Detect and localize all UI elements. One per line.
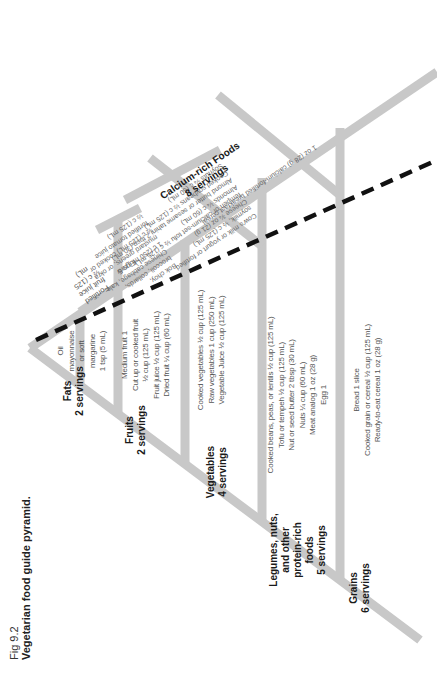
legumes-item: Nut or seed butter 2 tbsp (30 mL) [287, 290, 298, 500]
group-legumes-name: protein-rich [292, 500, 304, 600]
fruits-item: ½ cup (125 mL) [141, 300, 152, 410]
group-legumes-name: Legumes, nuts, [268, 500, 280, 600]
grains-item: Ready-to-eat cereal 1 oz (28 g) [373, 300, 384, 480]
legumes-item: Meat analog 1 oz (28 g) [308, 290, 319, 500]
fruits-item: Cut up or cooked fruit [131, 300, 142, 410]
figure-title: Vegetarian food guide pyramid. [20, 496, 32, 660]
fats-item: margarine [88, 316, 99, 386]
group-grains-servings: 6 servings [360, 548, 372, 628]
vegetables-item: Vegetable Juice ½ cup (125 mL) [217, 260, 228, 440]
legumes-item: Nuts ¼ cup (60 mL) [298, 290, 309, 500]
figure-caption: Fig 9.2 Vegetarian food guide pyramid. [8, 496, 32, 660]
group-legumes-name: foods [304, 500, 316, 600]
grains-item: Cooked grain or cereal ½ cup (125 mL) [363, 300, 374, 480]
vegetables-items: Cooked vegetables ½ cup (125 mL) Raw veg… [196, 260, 228, 440]
group-grains-name: Grains [348, 548, 360, 628]
fruits-item: Medium fruit 1 [120, 300, 131, 410]
grains-items: Bread 1 slice Cooked grain or cereal ½ c… [352, 300, 384, 480]
figure-number: Fig 9.2 [8, 496, 20, 660]
fruits-items: Medium fruit 1 Cut up or cooked fruit ½ … [120, 300, 173, 410]
legumes-items: Cooked beans, peas, or lentils ½ cup (12… [266, 290, 329, 500]
group-vegetables-name: Vegetables [205, 432, 217, 512]
fats-item: Oil [56, 316, 67, 386]
fruits-item: Fruit juice ½ cup (125 mL) [152, 300, 163, 410]
legumes-item: Tofu or tempeh ½ cup (125 mL) [277, 290, 288, 500]
fats-item: or soft [77, 316, 88, 386]
group-vegetables: Vegetables 4 servings [205, 432, 229, 512]
group-legumes: Legumes, nuts, and other protein-rich fo… [268, 500, 328, 600]
fruits-item: Dried fruit ¼ cup (60 mL) [162, 300, 173, 410]
legumes-item: Cooked beans, peas, or lentils ½ cup (12… [266, 290, 277, 500]
group-grains: Grains 6 servings [348, 548, 372, 628]
group-vegetables-servings: 4 servings [217, 432, 229, 512]
vegetables-item: Cooked vegetables ½ cup (125 mL) [196, 260, 207, 440]
fats-items: Oil mayonnaise or soft margarine 1 tsp (… [56, 316, 109, 386]
fats-item: mayonnaise [67, 316, 78, 386]
fats-item: 1 tsp (5 mL) [98, 316, 109, 386]
grains-item: Bread 1 slice [352, 300, 363, 480]
group-legumes-servings: 5 servings [316, 500, 328, 600]
legumes-item: Egg 1 [319, 290, 330, 500]
vegetables-item: Raw vegetables 1 cup (250 mL) [207, 260, 218, 440]
group-legumes-name: and other [280, 500, 292, 600]
